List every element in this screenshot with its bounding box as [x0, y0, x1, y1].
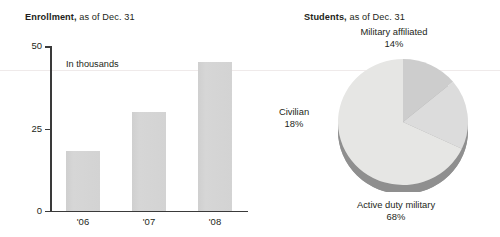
pie-chart-title-bold: Students,: [304, 12, 347, 22]
enrollment-bar-chart: Enrollment, as of Dec. 31 In thousands 5…: [0, 0, 250, 237]
bar-2006: [66, 151, 100, 210]
pie-value-civilian: 18%: [285, 118, 304, 129]
pie-graphic: [338, 52, 472, 192]
x-tick-label-2007: '07: [119, 216, 179, 227]
pie-value-military-affiliated: 14%: [385, 38, 404, 49]
bar-fill: [198, 62, 232, 210]
pie-label-active-duty-military-text: Active duty military: [357, 199, 435, 210]
y-tick-label-25: 25: [16, 123, 42, 134]
pie-chart-title-rest: as of Dec. 31: [347, 12, 405, 22]
bar-2007: [132, 112, 166, 211]
y-tick-label-0: 0: [16, 205, 42, 216]
bar-chart-title: Enrollment, as of Dec. 31: [25, 12, 135, 22]
bar-fill: [66, 151, 100, 210]
bar-chart-title-rest: as of Dec. 31: [77, 12, 135, 22]
bar-chart-title-bold: Enrollment,: [25, 12, 77, 22]
pie-label-civilian: Civilian 18%: [256, 106, 332, 131]
y-axis-line: [50, 46, 52, 212]
pie-svg: [338, 52, 472, 192]
pie-value-active-duty-military: 68%: [387, 211, 406, 222]
x-axis-line: [50, 211, 248, 213]
y-tick-label-50: 50: [16, 40, 42, 51]
figure-canvas: Enrollment, as of Dec. 31 In thousands 5…: [0, 0, 500, 237]
pie-chart-title: Students, as of Dec. 31: [304, 12, 405, 22]
bar-2008: [198, 62, 232, 210]
pie-label-civilian-text: Civilian: [279, 106, 309, 117]
students-pie-chart: Students, as of Dec. 31 Military affilia…: [250, 0, 500, 237]
bar-chart-unit-note: In thousands: [66, 59, 119, 69]
x-tick-label-2008: '08: [185, 216, 245, 227]
y-tick-mark-50: [45, 46, 50, 48]
pie-label-active-duty-military: Active duty military 68%: [306, 199, 486, 224]
pie-label-military-affiliated: Military affiliated 14%: [314, 26, 474, 51]
bar-fill: [132, 112, 166, 211]
x-tick-label-2006: '06: [53, 216, 113, 227]
pie-label-military-affiliated-text: Military affiliated: [360, 26, 427, 37]
y-tick-mark-25: [45, 129, 50, 131]
pie-slice-group: [338, 59, 468, 185]
y-tick-mark-0: [45, 211, 50, 213]
